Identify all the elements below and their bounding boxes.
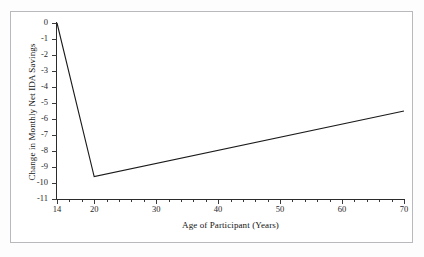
- y-axis-title: Change in Monthly Net IDA Savings: [26, 24, 39, 200]
- x-tick-mark-minor: [255, 200, 256, 202]
- x-tick-mark-minor: [367, 200, 368, 202]
- x-tick-mark-minor: [119, 200, 120, 202]
- x-tick-mark-minor: [317, 200, 318, 202]
- x-tick-mark-minor: [354, 200, 355, 202]
- x-tick-mark-minor: [243, 200, 244, 202]
- x-tick-mark-minor: [379, 200, 380, 202]
- x-tick-label: 14: [53, 204, 62, 214]
- y-tick-label: -6: [41, 114, 48, 123]
- x-tick-mark-minor: [305, 200, 306, 202]
- x-tick-mark-minor: [131, 200, 132, 202]
- x-axis-title: Age of Participant (Years): [57, 219, 404, 231]
- plot-area: [57, 23, 404, 199]
- x-tick-mark-minor: [231, 200, 232, 202]
- y-tick-label: -1: [41, 34, 48, 43]
- x-tick-mark-minor: [82, 200, 83, 202]
- x-tick-mark-minor: [206, 200, 207, 202]
- y-tick-label: -8: [41, 146, 48, 155]
- x-tick-mark-minor: [69, 200, 70, 202]
- x-tick-label: 50: [276, 204, 285, 214]
- y-tick-label: -5: [41, 98, 48, 107]
- x-tick-mark-minor: [330, 200, 331, 202]
- x-tick-mark-minor: [292, 200, 293, 202]
- x-tick-mark-minor: [144, 200, 145, 202]
- y-tick-label: -7: [41, 130, 48, 139]
- clipped-caption-above: [0, 0, 424, 2]
- x-tick-label: 40: [214, 204, 223, 214]
- x-tick-mark-minor: [181, 200, 182, 202]
- x-tick-label: 60: [338, 204, 347, 214]
- x-tick-mark-minor: [107, 200, 108, 202]
- y-tick-label: -2: [41, 50, 48, 59]
- data-series-line: [57, 23, 404, 199]
- x-tick-label: 70: [400, 204, 409, 214]
- x-tick-mark-minor: [392, 200, 393, 202]
- y-tick-label: -4: [41, 82, 48, 91]
- x-tick-label: 30: [152, 204, 161, 214]
- x-tick-mark-minor: [193, 200, 194, 202]
- y-tick-label: -9: [41, 162, 48, 171]
- figure-page: 0-1-2-3-4-5-6-7-8-9-10-11 14203040506070…: [0, 0, 424, 257]
- y-tick-label: -3: [41, 66, 48, 75]
- x-tick-label: 20: [90, 204, 99, 214]
- y-tick-label: 0: [44, 18, 48, 27]
- x-tick-mark-minor: [268, 200, 269, 202]
- x-tick-mark-minor: [169, 200, 170, 202]
